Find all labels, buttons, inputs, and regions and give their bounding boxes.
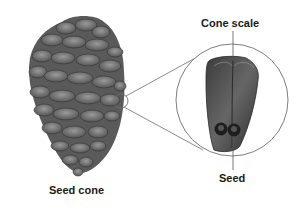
seed-label: Seed: [219, 172, 245, 184]
cone-scale-label: Cone scale: [201, 17, 259, 29]
diagram-canvas: [0, 0, 303, 209]
seed-cone-illustration: [29, 16, 126, 176]
seed-cone-label: Seed cone: [49, 184, 104, 196]
